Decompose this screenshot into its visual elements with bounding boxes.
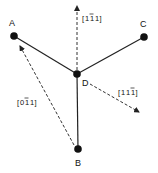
node-a <box>10 32 18 40</box>
svg-text:1: 1 <box>90 14 94 23</box>
svg-text:]: ] <box>100 14 102 23</box>
miller-index-label-top: [ 1 1 1 ] <box>82 14 102 23</box>
miller-index-label-left: [ 0 1 1 ] <box>17 98 37 107</box>
svg-text:1: 1 <box>126 88 130 97</box>
node-c <box>140 33 148 41</box>
svg-text:1: 1 <box>85 14 89 23</box>
node-b <box>74 145 82 153</box>
node-label-c: C <box>140 19 147 29</box>
node-label-d: D <box>82 78 89 88</box>
svg-text:1: 1 <box>25 98 29 107</box>
node-label-a: A <box>9 18 15 28</box>
miller-index-label-right: [ 1 1 1 ] <box>118 88 138 97</box>
svg-text:0: 0 <box>20 98 24 107</box>
node-label-b: B <box>75 158 81 168</box>
svg-text:]: ] <box>35 98 37 107</box>
direction-arrow-0-1bar-1 <box>20 46 74 145</box>
edge-b-d <box>77 74 78 149</box>
svg-text:]: ] <box>136 88 138 97</box>
edge-c-d <box>77 37 144 74</box>
dislocation-node-diagram: A B C D [ 1 1 1 ] [ 1 1 1 ] [ 0 1 1 ] <box>0 0 158 173</box>
node-d <box>73 70 81 78</box>
svg-text:1: 1 <box>121 88 125 97</box>
edge-a-d <box>14 36 77 74</box>
